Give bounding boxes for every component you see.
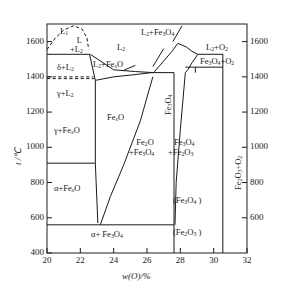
y-tick-label-right-800: 800 — [250, 178, 264, 187]
region-label-Fe3O4-Fe2O3: Fe3O4+Fe2O3 — [174, 138, 194, 158]
x-tick-label-26: 26 — [138, 256, 156, 265]
x-tick-label-28: 28 — [171, 256, 189, 265]
region-label-Fe2O3-O2-vertical: Fe2O3+O2 — [234, 156, 244, 190]
region-label-Fe3O4-vertical: Fe3O4 — [164, 95, 174, 115]
region-label-L2-O2: L2+O2 — [206, 43, 228, 53]
phase-diagram-figure: t /℃ w(O)/% 1600140012001000800600400 16… — [0, 0, 285, 295]
region-label-delta-L2: δ+L2 — [57, 63, 74, 73]
x-tick-label-20: 20 — [38, 256, 56, 265]
region-label-Fe3O4-O2: Fe3O4+O2 — [200, 57, 234, 67]
region-label-L2-FexO: L2+FexO — [93, 60, 123, 70]
y-tick-label-1200: 1200 — [16, 107, 44, 116]
x-axis-title: w(O)/% — [122, 272, 151, 281]
x-tick-label-30: 30 — [205, 256, 223, 265]
region-label-L2-Fe3O4: L2+Fe3O4 — [141, 28, 174, 38]
region-label-paren-Fe3O4: (Fe3O4 ) — [173, 196, 201, 206]
y-tick-label-1600: 1600 — [16, 37, 44, 46]
region-label-gamma-L2: γ+L2 — [57, 89, 74, 99]
region-label-Fe2O-Fe3O4: Fe2O+Fe3O4 — [136, 138, 154, 158]
y-tick-label-1400: 1400 — [16, 72, 44, 81]
region-label-alpha-Fe3O4: α+ Fe3O4 — [91, 230, 123, 240]
y-tick-label-right-1400: 1400 — [250, 72, 268, 81]
y-tick-label-1000: 1000 — [16, 142, 44, 151]
x-tick-label-32: 32 — [238, 256, 256, 265]
region-label-alpha-FexO: α+FexO — [54, 184, 80, 194]
y-tick-label-right-1600: 1600 — [250, 37, 268, 46]
region-label-L2: L2 — [117, 43, 125, 53]
y-tick-label-right-1000: 1000 — [250, 142, 268, 151]
y-tick-label-right-1200: 1200 — [250, 107, 268, 116]
region-label-L1: L1 — [60, 27, 68, 37]
region-label-paren-Fe2O3: (Fe2O3 ) — [173, 228, 201, 238]
region-label-L-plus-L2: L+L2 — [76, 36, 83, 55]
region-label-FexO: FexO — [107, 113, 124, 123]
y-tick-label-600: 600 — [16, 213, 44, 222]
y-tick-label-right-600: 600 — [250, 213, 264, 222]
x-tick-label-24: 24 — [105, 256, 123, 265]
x-tick-label-22: 22 — [71, 256, 89, 265]
y-tick-label-800: 800 — [16, 178, 44, 187]
region-label-gamma-FexO: γ+FexO — [54, 126, 80, 136]
